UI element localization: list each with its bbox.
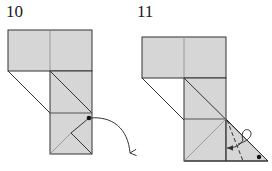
step-10-figure — [8, 30, 130, 154]
curved-arrow — [90, 118, 130, 153]
origami-diagram — [0, 0, 272, 171]
dot-marker — [257, 155, 261, 159]
left-flap-edge — [142, 78, 184, 120]
left-flap-edge — [8, 71, 50, 113]
step-11-figure — [142, 37, 268, 161]
